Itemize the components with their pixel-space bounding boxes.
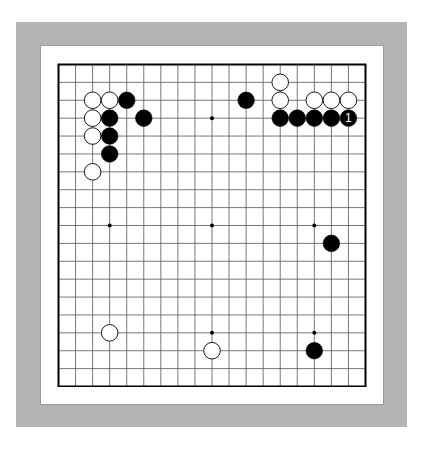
black-stone[interactable] [101, 128, 118, 145]
move-number-label: 1 [345, 111, 352, 125]
white-stone[interactable] [272, 74, 289, 91]
star-point [210, 224, 214, 228]
white-stone[interactable] [84, 128, 101, 145]
black-stone[interactable] [101, 146, 118, 163]
black-stone[interactable] [323, 110, 340, 127]
go-board-grid[interactable]: 1 [57, 63, 367, 387]
white-stone[interactable] [84, 110, 101, 127]
white-stone[interactable] [340, 92, 357, 109]
white-stone[interactable] [84, 164, 101, 181]
star-point [108, 224, 112, 228]
star-point [312, 331, 316, 335]
white-stone[interactable] [84, 92, 101, 109]
black-stone[interactable] [306, 110, 323, 127]
black-stone[interactable] [272, 110, 289, 127]
white-stone[interactable] [323, 92, 340, 109]
white-stone[interactable] [101, 92, 118, 109]
go-board[interactable]: 1 [57, 63, 367, 387]
black-stone[interactable] [101, 110, 118, 127]
black-stone[interactable] [238, 92, 255, 109]
black-stone[interactable] [306, 342, 323, 359]
black-stone[interactable] [118, 92, 135, 109]
black-stone[interactable] [323, 235, 340, 252]
black-stone[interactable] [135, 110, 152, 127]
white-stone[interactable] [306, 92, 323, 109]
white-stone[interactable] [204, 342, 221, 359]
white-stone[interactable] [272, 92, 289, 109]
black-stone[interactable] [289, 110, 306, 127]
black-stone[interactable]: 1 [340, 110, 357, 127]
star-point [210, 116, 214, 120]
white-stone[interactable] [101, 325, 118, 342]
star-point [210, 331, 214, 335]
star-point [312, 224, 316, 228]
